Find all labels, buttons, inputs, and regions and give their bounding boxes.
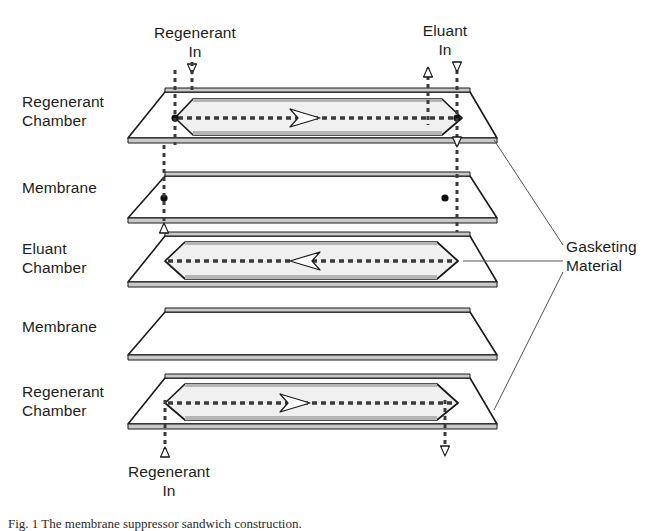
plate-top-edge — [165, 172, 470, 176]
gasket-top-shade — [185, 384, 437, 387]
port-arrow-up-icon — [160, 223, 169, 233]
label-regenerant-chamber-top: Regenerant Chamber — [22, 93, 132, 130]
plate-outline — [128, 312, 497, 355]
layer-membrane-upper — [128, 172, 497, 223]
gasket-top-shade — [185, 242, 437, 245]
port-arrow-up-icon — [161, 447, 170, 457]
label-membrane-lower: Membrane — [22, 318, 132, 337]
plate-bottom-edge — [128, 218, 497, 223]
plate-bottom-edge — [128, 424, 497, 429]
plate-top-edge — [165, 232, 470, 236]
gasket-top-shade — [193, 99, 442, 102]
plate-top-edge — [165, 374, 470, 378]
gasket-bottom-shade — [185, 416, 437, 420]
gasket-bottom-shade — [193, 131, 442, 135]
leader-line-top — [494, 140, 563, 245]
port-arrow-down-icon — [441, 446, 450, 456]
layer-eluant-chamber — [128, 232, 497, 287]
plate-bottom-edge — [128, 282, 497, 287]
label-membrane-upper: Membrane — [22, 179, 132, 198]
plate-top-edge — [165, 308, 470, 312]
layer-regenerant-chamber-bottom — [128, 374, 497, 429]
port-arrow-down-icon — [453, 62, 462, 72]
plate-bottom-edge — [128, 355, 497, 360]
plate-top-edge — [165, 88, 470, 92]
figure-caption: Fig. 1 The membrane suppressor sandwich … — [8, 516, 302, 531]
leader-line-bottom — [494, 272, 563, 410]
label-gasketing-material: Gasketing Material — [566, 238, 655, 275]
plate-bottom-edge — [128, 138, 497, 143]
label-eluant-in-top: Eluant In — [400, 22, 490, 59]
label-regenerant-in-top: Regenerant In — [136, 24, 254, 61]
label-eluant-chamber: Eluant Chamber — [22, 240, 132, 277]
gasket-bottom-shade — [185, 275, 437, 279]
layer-membrane-lower — [128, 308, 497, 360]
layer-regenerant-chamber-top — [128, 88, 497, 143]
port-hole-icon — [441, 194, 448, 201]
label-regenerant-chamber-bottom: Regenerant Chamber — [22, 383, 132, 420]
port-arrow-up-icon — [424, 67, 433, 77]
label-regenerant-in-bottom: Regenerant In — [110, 463, 228, 500]
figure-root: Regenerant In Eluant In Regenerant Chamb… — [0, 0, 655, 531]
